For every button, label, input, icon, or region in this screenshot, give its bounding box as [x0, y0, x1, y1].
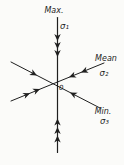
sigma1-symbol: σ₁ — [60, 21, 69, 31]
max-axis-label: Max. — [44, 6, 63, 15]
arrow-icon — [69, 90, 78, 99]
sigma3-symbol: σ₃ — [100, 116, 109, 126]
arrow-icon — [80, 67, 89, 76]
principal-stress-diagram: Max. σ₁ Mean σ₂ Min. σ₃ 0 — [0, 0, 124, 165]
arrow-icon — [32, 86, 41, 95]
arrow-icon — [22, 90, 31, 99]
arrow-icon — [68, 72, 77, 81]
sigma2-symbol: σ₂ — [100, 68, 109, 78]
mean-axis-label: Mean — [95, 54, 117, 63]
arrow-icon — [29, 69, 38, 78]
origin-label: 0 — [59, 84, 64, 92]
min-axis-line — [11, 62, 100, 108]
min-axis-label: Min. — [95, 107, 112, 116]
diagram-canvas: Max. σ₁ Mean σ₂ Min. σ₃ 0 — [0, 0, 124, 165]
min-axis — [11, 62, 100, 108]
